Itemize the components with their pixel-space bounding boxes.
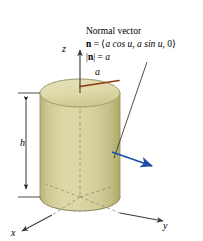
vector-symbol-n: n <box>86 39 91 49</box>
y-axis <box>120 213 163 221</box>
height-label: h <box>20 137 25 149</box>
normal-vector-annotation: Normal vector n = ⟨a cos u, a sin u, 0⟩ … <box>86 25 176 63</box>
annotation-title: Normal vector <box>86 25 176 38</box>
component-x: a cos u <box>105 39 132 49</box>
z-axis-label: z <box>62 43 66 55</box>
x-axis <box>22 215 52 231</box>
magnitude-bar-close: | <box>93 52 95 62</box>
component-separator-2: , <box>162 39 164 49</box>
component-separator-1: , <box>132 39 134 49</box>
cylinder-normal-vector-figure: Normal vector n = ⟨a cos u, a sin u, 0⟩ … <box>0 0 203 241</box>
radius-label: a <box>95 66 100 78</box>
annotation-vector-equation: n = ⟨a cos u, a sin u, 0⟩ <box>86 38 176 51</box>
y-axis-label: y <box>163 220 167 232</box>
angle-bracket-close: ⟩ <box>172 39 176 49</box>
x-axis-label: x <box>11 227 15 239</box>
component-y: a sin u <box>137 39 162 49</box>
annotation-title-text: Normal vector <box>86 26 141 36</box>
magnitude-value: a <box>105 52 110 62</box>
equals-sign: = <box>94 39 99 49</box>
annotation-magnitude-equation: |n| = a <box>86 51 176 64</box>
magnitude-equals-sign: = <box>97 52 102 62</box>
